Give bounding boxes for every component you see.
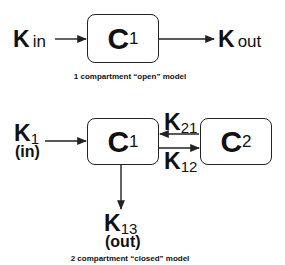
caption-open-model: 1 compartment “open” model: [70, 72, 190, 81]
k1-note: (in): [15, 144, 40, 160]
caption-closed-model: 2 compartment “closed” model: [60, 254, 200, 263]
kin-label: Kin: [13, 28, 46, 51]
compartment-c1-closed: C1: [87, 118, 159, 165]
compartment-c2-closed: C2: [200, 118, 272, 165]
compartment-c1-open: C1: [87, 14, 159, 63]
kout-label: Kout: [218, 28, 261, 51]
k12-label: K12: [164, 150, 197, 174]
k13-note: (out): [105, 234, 141, 250]
k21-label: K21: [164, 111, 197, 135]
